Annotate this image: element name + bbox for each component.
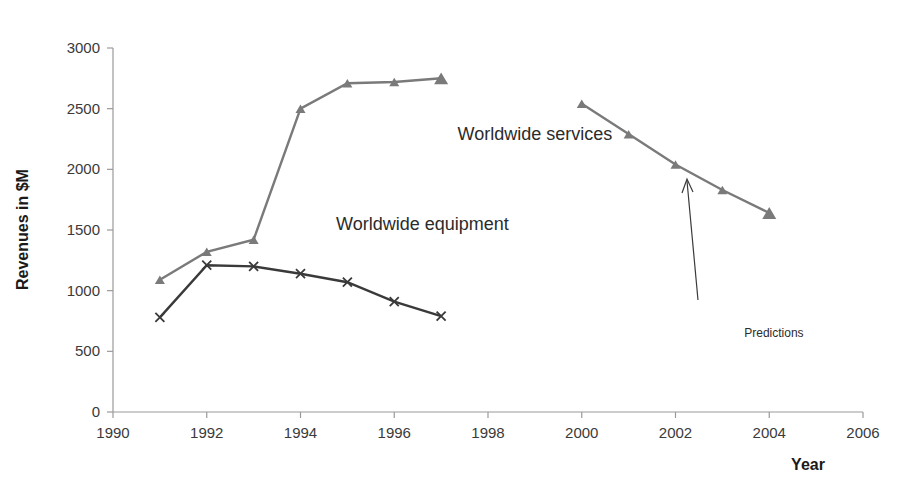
marker-x [155, 313, 164, 322]
predictions-label: Predictions [744, 326, 803, 340]
y-tick-label: 0 [92, 403, 100, 420]
marker-triangle [577, 100, 587, 109]
y-tick-label: 1000 [67, 282, 100, 299]
x-tick-label: 1998 [471, 424, 504, 441]
series-layer [155, 72, 776, 321]
y-tick-label: 3000 [67, 39, 100, 56]
series-worldwide-equipment [155, 261, 445, 322]
marker-triangle [762, 207, 776, 219]
x-tick-label: 1994 [284, 424, 317, 441]
x-tick-label: 2000 [565, 424, 598, 441]
x-tick-label: 1992 [190, 424, 223, 441]
x-tick-label: 2002 [659, 424, 692, 441]
y-tick-label: 2000 [67, 160, 100, 177]
y-axis-ticks: 050010001500200025003000 [67, 39, 113, 420]
predictions-arrow-icon [687, 181, 698, 300]
x-tick-label: 1990 [96, 424, 129, 441]
chart-container: 050010001500200025003000 199019921994199… [0, 0, 909, 499]
x-axis-title: Year [791, 456, 825, 473]
series-predictions [577, 100, 777, 219]
series-worldwide-services [155, 72, 448, 284]
y-axis-title: Revenues in $M [14, 169, 31, 290]
predictions-callout: Predictions [682, 179, 804, 340]
series-label-equipment: Worldwide equipment [336, 214, 509, 234]
x-axis-ticks: 199019921994199619982000200220042006 [96, 412, 879, 441]
series-label-services: Worldwide services [458, 124, 613, 144]
x-tick-label: 2004 [753, 424, 786, 441]
y-tick-label: 2500 [67, 100, 100, 117]
x-tick-label: 1996 [378, 424, 411, 441]
series-line [582, 104, 770, 213]
y-tick-label: 500 [75, 342, 100, 359]
revenue-line-chart: 050010001500200025003000 199019921994199… [0, 0, 909, 499]
y-tick-label: 1500 [67, 221, 100, 238]
x-tick-label: 2006 [846, 424, 879, 441]
